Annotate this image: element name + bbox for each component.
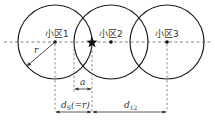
cell-3-center-dot [165, 40, 169, 44]
cell-3-label: 小区3 [155, 29, 179, 39]
d12-label: d12 [124, 100, 138, 111]
a-label: a [80, 77, 85, 87]
cell-1-label: 小区1 [45, 29, 69, 39]
radius-line [27, 42, 55, 66]
radius-label: r [34, 45, 39, 55]
cell-diagram: r 小区1 小区2 小区3 a dS(=r) d12 [0, 0, 215, 130]
cell-2-center-dot [109, 40, 113, 44]
ds-label: dS(=r) [61, 100, 90, 111]
cell-1-center-dot [53, 40, 57, 44]
cell-2-label: 小区2 [99, 29, 123, 39]
